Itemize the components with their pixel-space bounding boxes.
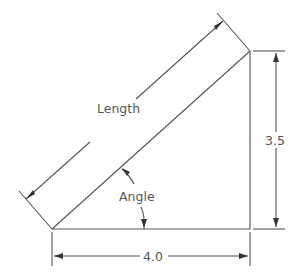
base-arrow-right [239,253,248,259]
height-label: 3.5 [265,133,285,148]
triangle-drawing: Length Angle 3.5 4.0 [0,0,301,277]
angle-arrow-upper [122,168,130,176]
length-extension-top [217,13,250,51]
base-dimension: 4.0 [52,232,250,266]
length-arrow-top [214,21,223,30]
base-label: 4.0 [143,249,163,264]
angle-arrow-lower [141,219,147,228]
length-label: Length [97,101,140,116]
height-arrow-top [273,53,279,62]
base-arrow-left [54,253,63,259]
height-dimension: 3.5 [253,51,285,229]
length-arrow-bottom [26,190,35,199]
angle-dimension: Angle [119,168,155,229]
length-dim-line-lower [26,142,90,199]
angle-label: Angle [119,189,155,204]
height-arrow-bottom [273,218,279,227]
length-extension-bottom [19,191,52,229]
